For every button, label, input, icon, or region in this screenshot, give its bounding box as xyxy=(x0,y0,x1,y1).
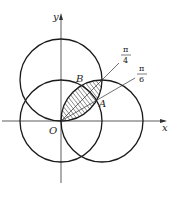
point-b-label: B xyxy=(75,73,83,84)
polar-region-diagram: x y O B A π 4 π 6 xyxy=(0,0,183,203)
svg-text:π: π xyxy=(139,64,144,73)
point-a-label: A xyxy=(98,98,106,109)
svg-text:6: 6 xyxy=(139,75,144,84)
svg-text:4: 4 xyxy=(123,56,128,65)
origin-label: O xyxy=(49,125,57,136)
x-axis-label: x xyxy=(162,122,168,133)
y-axis-label: y xyxy=(52,11,59,22)
angle-label-pi-over-4: π 4 xyxy=(121,45,131,65)
angle-label-pi-over-6: π 6 xyxy=(137,64,147,84)
y-axis-arrow-icon xyxy=(59,13,63,20)
svg-text:π: π xyxy=(123,45,128,54)
